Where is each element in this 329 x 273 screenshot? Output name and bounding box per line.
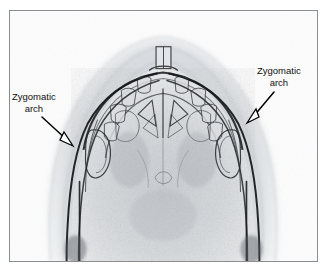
- zygomatic-arch-left-label-line1: Zygomatic: [12, 91, 56, 102]
- zygomatic-arch-right-label-line1: Zygomatic: [257, 65, 301, 76]
- zygomatic-arch-right-label: Zygomatic arch: [257, 65, 301, 88]
- zygomatic-arch-left-label-line2: arch: [12, 103, 56, 115]
- zygomatic-arch-left-label: Zygomatic arch: [12, 91, 56, 114]
- zygomatic-arch-right-label-line2: arch: [257, 77, 301, 89]
- skull-radiograph-image: [10, 11, 317, 261]
- radiograph-frame: [9, 10, 318, 262]
- figure-root: Zygomatic arch Zygomatic arch: [0, 0, 329, 273]
